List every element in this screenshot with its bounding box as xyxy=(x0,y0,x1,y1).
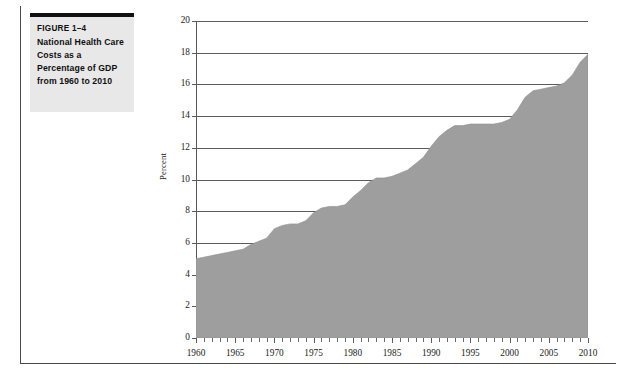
x-axis-tick xyxy=(549,338,550,343)
x-axis-minor-tick xyxy=(376,338,377,342)
x-axis-minor-tick xyxy=(400,338,401,342)
area-series xyxy=(196,21,588,338)
x-axis-minor-tick xyxy=(220,338,221,342)
x-axis-minor-tick xyxy=(243,338,244,342)
x-axis-minor-tick xyxy=(541,338,542,342)
x-axis-tick-label: 1985 xyxy=(383,349,402,358)
y-axis-tick-label: 16 xyxy=(181,80,190,89)
x-axis-minor-tick xyxy=(259,338,260,342)
figure-page: FIGURE 1–4 National Health Care Costs as… xyxy=(0,0,623,382)
x-axis-minor-tick xyxy=(572,338,573,342)
y-axis-tick-label: 2 xyxy=(185,302,190,311)
x-axis-minor-tick xyxy=(408,338,409,342)
x-axis-minor-tick xyxy=(486,338,487,342)
x-axis-minor-tick xyxy=(580,338,581,342)
x-axis-tick-label: 2000 xyxy=(500,349,519,358)
x-axis-minor-tick xyxy=(251,338,252,342)
y-axis-tick-label: 20 xyxy=(181,16,190,25)
y-axis-tick-label: 18 xyxy=(181,48,190,57)
x-axis-minor-tick xyxy=(463,338,464,342)
x-axis-tick-label: 1965 xyxy=(226,349,245,358)
figure-caption-box: FIGURE 1–4 National Health Care Costs as… xyxy=(30,13,134,112)
y-axis-tick-label: 12 xyxy=(181,143,190,152)
x-axis-minor-tick xyxy=(447,338,448,342)
x-axis-tick xyxy=(392,338,393,343)
x-axis-minor-tick xyxy=(290,338,291,342)
x-axis-tick-label: 1960 xyxy=(187,349,206,358)
x-axis-tick xyxy=(588,338,589,343)
x-axis-minor-tick xyxy=(525,338,526,342)
y-axis-tick-label: 14 xyxy=(181,111,190,120)
y-axis-tick-label: 6 xyxy=(185,238,190,247)
x-axis-tick-label: 1995 xyxy=(461,349,480,358)
x-axis-tick xyxy=(510,338,511,343)
y-axis-tick-label: 0 xyxy=(185,333,190,342)
x-axis-tick-label: 1980 xyxy=(344,349,363,358)
x-axis-minor-tick xyxy=(267,338,268,342)
x-axis-tick xyxy=(274,338,275,343)
plot-area: 02468101214161820 1960196519701975198019… xyxy=(196,21,588,338)
x-axis-tick-label: 1990 xyxy=(422,349,441,358)
x-axis-minor-tick xyxy=(212,338,213,342)
y-axis-title: Percent xyxy=(158,153,168,180)
x-axis-minor-tick xyxy=(345,338,346,342)
x-axis-minor-tick xyxy=(423,338,424,342)
figure-number-label: FIGURE 1–4 xyxy=(37,22,129,35)
y-axis-tick-label: 4 xyxy=(185,270,190,279)
x-axis-tick xyxy=(314,338,315,343)
x-axis-minor-tick xyxy=(502,338,503,342)
x-axis-minor-tick xyxy=(298,338,299,342)
x-axis-minor-tick xyxy=(517,338,518,342)
x-axis-tick xyxy=(235,338,236,343)
x-axis-minor-tick xyxy=(306,338,307,342)
figure-title: National Health Care Costs as a Percenta… xyxy=(37,36,129,89)
x-axis-tick xyxy=(470,338,471,343)
x-axis-minor-tick xyxy=(361,338,362,342)
x-axis-tick-label: 2005 xyxy=(540,349,559,358)
x-axis-minor-tick xyxy=(416,338,417,342)
x-axis-minor-tick xyxy=(337,338,338,342)
x-axis-minor-tick xyxy=(564,338,565,342)
x-axis-tick xyxy=(431,338,432,343)
x-axis-minor-tick xyxy=(329,338,330,342)
x-axis-minor-tick xyxy=(321,338,322,342)
x-axis-tick-label: 1970 xyxy=(265,349,284,358)
x-axis-minor-tick xyxy=(204,338,205,342)
chart: Percent 02468101214161820 19601965197019… xyxy=(150,10,615,365)
x-axis-minor-tick xyxy=(368,338,369,342)
caption-top-rule xyxy=(30,13,134,17)
x-axis-minor-tick xyxy=(557,338,558,342)
x-axis-minor-tick xyxy=(227,338,228,342)
x-axis-tick xyxy=(353,338,354,343)
x-axis-minor-tick xyxy=(494,338,495,342)
area-series-path xyxy=(196,54,588,338)
caption-text: FIGURE 1–4 National Health Care Costs as… xyxy=(37,22,129,89)
x-axis-minor-tick xyxy=(478,338,479,342)
x-axis-minor-tick xyxy=(439,338,440,342)
y-axis-tick-label: 8 xyxy=(185,207,190,216)
x-axis-tick xyxy=(196,338,197,343)
x-axis-tick-label: 2010 xyxy=(579,349,598,358)
x-axis-minor-tick xyxy=(455,338,456,342)
y-axis-tick-label: 10 xyxy=(181,175,190,184)
x-axis-tick-label: 1975 xyxy=(304,349,323,358)
x-axis-minor-tick xyxy=(282,338,283,342)
x-axis-minor-tick xyxy=(533,338,534,342)
x-axis-minor-tick xyxy=(384,338,385,342)
